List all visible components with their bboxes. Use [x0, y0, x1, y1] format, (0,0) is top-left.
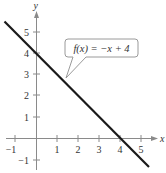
x-tick-label: −1	[6, 144, 17, 155]
x-axis-label: x	[159, 133, 165, 144]
equation-callout: f(x) = −x + 4	[65, 39, 138, 78]
y-tick-label: 4	[24, 48, 29, 59]
y-tick-label: 5	[24, 27, 29, 38]
y-tick-label: 2	[24, 90, 29, 101]
x-tick-label: 4	[118, 144, 123, 155]
y-tick-label: 1	[24, 112, 29, 123]
x-tick-label: 2	[76, 144, 81, 155]
x-axis	[6, 136, 158, 141]
y-tick-label: −1	[18, 155, 29, 166]
x-tick-label: 1	[55, 144, 60, 155]
x-axis-arrow-icon	[151, 136, 158, 141]
x-tick-labels: −1 1 2 3 4 5	[6, 144, 144, 155]
y-tick-labels: 5 4 3 2 1 −1	[18, 27, 29, 166]
function-graph: x y −1 1 2 3 4 5 5 4 3 2 1 −1	[0, 0, 166, 173]
x-tick-label: 3	[97, 144, 102, 155]
callout-equation: f(x) = −x + 4	[73, 43, 130, 55]
y-tick-label: 3	[24, 69, 29, 80]
y-axis-arrow-icon	[34, 11, 39, 18]
y-axis	[34, 11, 39, 170]
x-tick-label: 5	[139, 144, 144, 155]
y-axis-label: y	[33, 0, 39, 11]
